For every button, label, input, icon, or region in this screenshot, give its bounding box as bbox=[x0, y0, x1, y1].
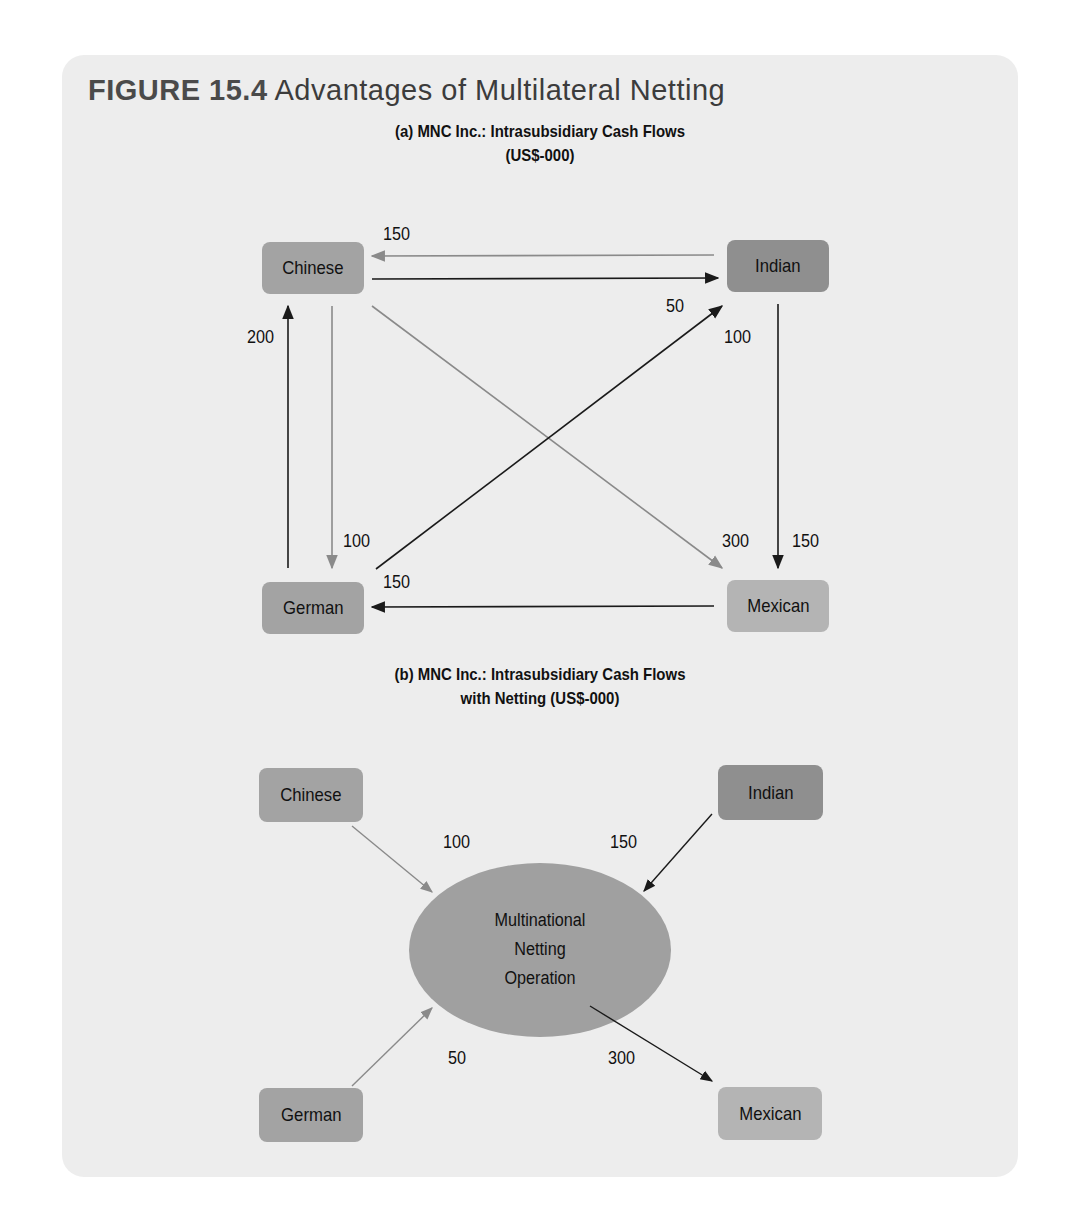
part-b-title: (b) MNC Inc.: Intrasubsidiary Cash Flows… bbox=[276, 663, 804, 711]
node-b-german-label: German bbox=[281, 1104, 341, 1126]
flow-label-b-german: 50 bbox=[448, 1048, 466, 1069]
arrow-b-center-to-mexican bbox=[590, 1006, 712, 1081]
flow-label-indian-mexican: 150 bbox=[792, 531, 819, 552]
netting-center-label: Multinational Netting Operation bbox=[440, 906, 640, 993]
arrow-chinese-to-indian bbox=[372, 278, 718, 279]
netting-center-line3: Operation bbox=[450, 964, 630, 993]
flow-label-b-indian: 150 bbox=[610, 832, 637, 853]
netting-center-line1: Multinational bbox=[450, 906, 630, 935]
node-b-chinese-label: Chinese bbox=[280, 784, 341, 806]
flow-label-b-mexican: 300 bbox=[608, 1048, 635, 1069]
node-b-mexican: Mexican bbox=[718, 1087, 822, 1140]
flow-label-chinese-mexican: 300 bbox=[722, 531, 749, 552]
part-b-title-line2: with Netting (US$-000) bbox=[276, 687, 804, 711]
arrow-mexican-to-german bbox=[372, 606, 714, 607]
arrow-b-german-to-center bbox=[352, 1008, 432, 1086]
node-b-german: German bbox=[259, 1088, 363, 1142]
arrow-b-chinese-to-center bbox=[352, 826, 432, 892]
arrow-b-indian-to-center bbox=[644, 814, 712, 891]
node-b-indian-label: Indian bbox=[748, 782, 794, 804]
flow-label-german-chinese: 200 bbox=[247, 327, 274, 348]
node-a-indian-label: Indian bbox=[755, 255, 801, 277]
flow-label-b-chinese: 100 bbox=[443, 832, 470, 853]
node-b-mexican-label: Mexican bbox=[739, 1103, 801, 1125]
flow-arrows bbox=[0, 0, 1069, 1221]
node-a-german-label: German bbox=[283, 597, 343, 619]
flow-label-german-indian: 100 bbox=[724, 327, 751, 348]
part-b-title-line1: (b) MNC Inc.: Intrasubsidiary Cash Flows bbox=[276, 663, 804, 687]
flow-label-chinese-indian: 50 bbox=[666, 296, 684, 317]
flow-label-chinese-german: 100 bbox=[343, 531, 370, 552]
flow-label-indian-chinese: 150 bbox=[383, 224, 410, 245]
netting-center-line2: Netting bbox=[450, 935, 630, 964]
node-a-mexican-label: Mexican bbox=[747, 595, 809, 617]
node-a-mexican: Mexican bbox=[727, 580, 829, 632]
arrow-indian-to-chinese bbox=[372, 255, 714, 256]
node-a-indian: Indian bbox=[727, 240, 829, 292]
node-a-german: German bbox=[262, 582, 364, 634]
node-a-chinese: Chinese bbox=[262, 242, 364, 294]
node-a-chinese-label: Chinese bbox=[282, 257, 343, 279]
flow-label-mexican-german: 150 bbox=[383, 572, 410, 593]
node-b-indian: Indian bbox=[718, 765, 823, 820]
node-b-chinese: Chinese bbox=[259, 768, 363, 822]
